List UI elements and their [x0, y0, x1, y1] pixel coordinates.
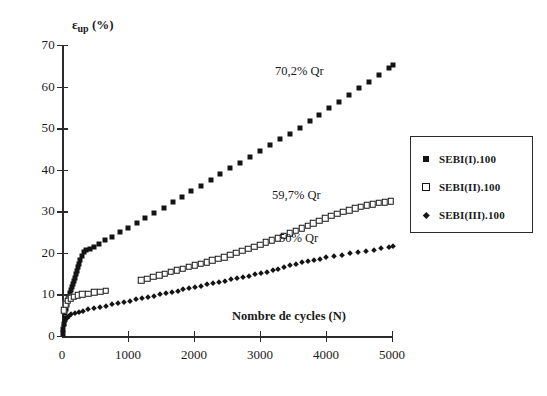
data-point: [240, 274, 245, 279]
data-point: [252, 272, 257, 277]
data-point: [391, 244, 396, 249]
y-tick-label: 20: [42, 245, 55, 261]
data-point: [317, 256, 322, 261]
data-point: [121, 299, 126, 304]
y-axis-title-unit: (%): [89, 17, 114, 32]
data-point: [127, 298, 132, 303]
x-tick-label: 0: [59, 347, 66, 363]
data-point: [355, 249, 360, 254]
open-square-marker-icon: [422, 183, 430, 191]
data-point: [282, 264, 287, 269]
y-tick-label: 50: [42, 120, 55, 136]
y-tick-label: 30: [42, 203, 55, 219]
filled-square-marker-icon: [423, 156, 429, 162]
x-tick-label: 1000: [115, 347, 141, 363]
data-point: [139, 295, 144, 300]
y-tick-label: 70: [42, 37, 55, 53]
data-point: [323, 255, 328, 260]
data-point: [305, 258, 310, 263]
y-tick-label: 40: [42, 162, 55, 178]
x-tick-label: 2000: [181, 347, 207, 363]
data-point: [331, 253, 336, 258]
legend-item-sebi-ii[interactable]: SEBI(II).100: [422, 181, 500, 193]
data-point: [264, 269, 269, 274]
data-point: [145, 294, 150, 299]
data-point: [347, 251, 352, 256]
data-point: [169, 289, 174, 294]
chart-figure: εup (%) 010203040506070 0100020003000400…: [0, 0, 547, 396]
annotation-series-3: 50% Qr: [279, 231, 318, 246]
chart-legend: SEBI(I).100 SEBI(II).100 SEBI(III).100: [410, 136, 533, 233]
x-axis-line: [62, 336, 392, 338]
data-point: [339, 252, 344, 257]
data-point: [151, 293, 156, 298]
legend-item-label: SEBI(II).100: [439, 181, 500, 193]
data-point: [115, 300, 120, 305]
annotation-series-1: 70,2% Qr: [275, 64, 324, 79]
y-axis-title: εup (%): [72, 17, 114, 34]
data-point: [246, 273, 251, 278]
data-point: [133, 297, 138, 302]
data-point: [210, 281, 215, 286]
data-point: [228, 277, 233, 282]
data-point: [379, 246, 384, 251]
legend-item-label: SEBI(I).100: [439, 153, 496, 165]
x-tick-label: 5000: [379, 347, 405, 363]
data-point: [216, 279, 221, 284]
data-point: [258, 271, 263, 276]
x-axis-title: Nombre de cycles (N): [232, 309, 346, 324]
data-point: [311, 257, 316, 262]
data-point: [222, 278, 227, 283]
plot-area: 010203040506070 010002000300040005000: [62, 45, 392, 336]
data-point: [98, 304, 103, 309]
legend-item-sebi-iii[interactable]: SEBI(III).100: [422, 209, 505, 221]
x-tick-label: 4000: [313, 347, 339, 363]
y-axis-title-subscript: up: [78, 23, 89, 34]
y-tick-label: 10: [42, 286, 55, 302]
y-tick-label: 60: [42, 79, 55, 95]
x-tick-label: 3000: [247, 347, 273, 363]
data-point: [163, 290, 168, 295]
data-point: [157, 292, 162, 297]
data-point: [234, 276, 239, 281]
data-point: [193, 284, 198, 289]
data-point: [371, 247, 376, 252]
x-tick-mark: [392, 331, 393, 342]
diamond-marker-icon: [423, 212, 429, 218]
legend-item-sebi-i[interactable]: SEBI(I).100: [422, 153, 496, 165]
y-tick-label: 0: [48, 328, 55, 344]
annotation-series-2: 59,7% Qr: [272, 188, 321, 203]
data-series-3: [62, 45, 392, 336]
data-point: [363, 248, 368, 253]
legend-item-label: SEBI(III).100: [439, 209, 505, 221]
